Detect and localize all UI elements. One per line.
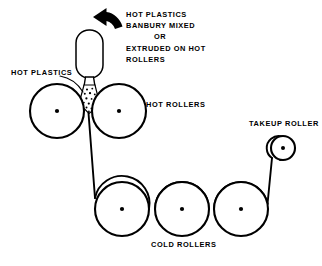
cold-roller-3 xyxy=(214,182,268,236)
takeup-roller xyxy=(271,136,295,160)
label-hot-rollers: HOT ROLLERS xyxy=(146,101,206,109)
cold-roller-2 xyxy=(155,182,209,236)
hopper-extruder xyxy=(76,30,103,87)
hot-roller-right xyxy=(92,84,146,138)
feed-arrow-icon xyxy=(93,8,123,29)
hot-roller-left xyxy=(30,84,84,138)
process-diagram: HOT PLASTICS BANBURY MIXED OR EXTRUDED O… xyxy=(0,0,322,266)
annotation-line-4: EXTRUDED ON HOT xyxy=(126,43,222,54)
process-annotation: HOT PLASTICS BANBURY MIXED OR EXTRUDED O… xyxy=(126,9,222,65)
label-takeup-roller: TAKEUP ROLLER xyxy=(249,120,319,128)
cold-roller-1 xyxy=(95,182,149,236)
web-nip-to-cold xyxy=(89,113,96,198)
label-hot-plastics: HOT PLASTICS xyxy=(11,69,72,77)
annotation-line-5: ROLLERS xyxy=(126,54,222,65)
annotation-line-3: OR xyxy=(126,31,194,42)
web-to-takeup xyxy=(268,158,273,204)
annotation-line-2: BANBURY MIXED xyxy=(126,20,222,31)
annotation-line-1: HOT PLASTICS xyxy=(126,9,222,20)
label-cold-rollers: COLD ROLLERS xyxy=(151,241,217,249)
